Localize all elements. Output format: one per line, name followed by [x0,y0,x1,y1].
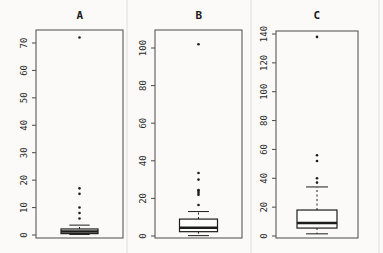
y-tick-label: 60 [259,144,269,155]
outlier-point [316,36,319,39]
panel-b-plot: 020406080100 [138,30,242,239]
y-tick-label: 100 [259,84,269,100]
panel-c-plot: 020406080100120140 [259,26,358,239]
y-tick-label: 0 [259,233,269,238]
outlier-point [197,172,200,175]
y-tick-label: 20 [259,202,269,213]
outlier-point [197,178,200,181]
panel-a-title: A [76,9,83,22]
y-tick-label: 140 [259,26,269,42]
y-tick-label: 60 [19,65,29,76]
outlier-point [78,206,81,209]
y-tick-label: 60 [138,118,148,129]
y-tick-label: 50 [19,92,29,103]
y-tick-label: 100 [138,40,148,56]
y-tick-label: 40 [19,120,29,131]
y-tick-label: 0 [19,232,29,237]
outlier-point [78,193,81,196]
plot-frame [276,31,358,238]
panel-c-title: C [313,9,320,22]
outlier-point [197,43,200,46]
iqr-box [297,210,337,228]
outlier-point [78,36,81,39]
y-tick-label: 20 [19,175,29,186]
y-tick-label: 10 [19,202,29,213]
y-tick-label: 80 [259,115,269,126]
outlier-point [78,187,81,190]
y-tick-label: 20 [138,193,148,204]
panel-b-title: B [195,9,202,22]
y-tick-label: 120 [259,55,269,71]
panel-a-plot: 010203040506070 [19,30,123,238]
outlier-point [78,212,81,215]
outlier-point [316,177,319,180]
outlier-point [197,189,200,192]
y-tick-label: 80 [138,80,148,91]
y-tick-label: 30 [19,147,29,158]
y-tick-label: 40 [138,155,148,166]
plot-frame [155,30,242,238]
outlier-point [316,181,319,184]
outlier-point [197,204,200,207]
boxplot-canvas: 010203040506070 020406080100 02040608010… [0,0,383,253]
y-tick-label: 70 [19,38,29,49]
outlier-point [78,217,81,220]
boxplot-figure: 010203040506070 020406080100 02040608010… [0,0,383,253]
outlier-point [316,160,319,163]
y-tick-label: 40 [259,173,269,184]
outlier-point [316,154,319,157]
iqr-box [180,219,218,232]
y-tick-label: 0 [138,233,148,238]
